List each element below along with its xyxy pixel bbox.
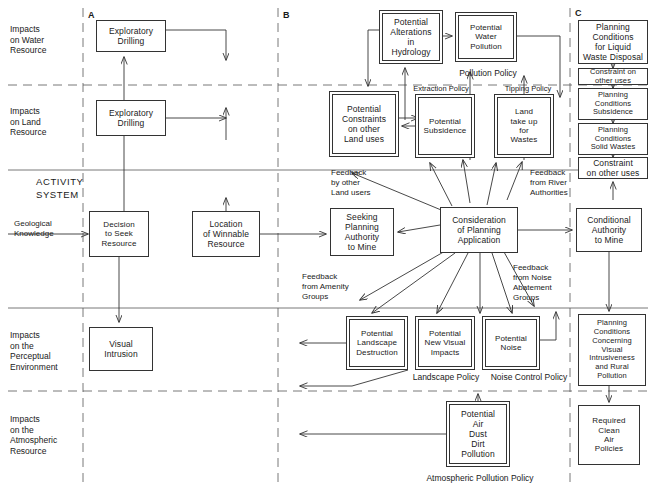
node-potential-subsidence: Potential Subsidence [415,94,475,158]
node-label: Decision to Seek Resource [99,220,138,248]
node-potential-new-visual-impacts: Potential New Visual Impacts [415,316,475,370]
node-label: Visual Intrusion [102,339,140,359]
row-label-perceptual: Impacts on the Perceptual Environment [10,330,86,373]
diagram-canvas: Exploratory DrillingExploratory Drilling… [0,0,652,493]
annotation-noise-control-policy: Noise Control Policy [478,372,580,383]
node-potential-constraints-land-uses: Potential Constraints on other Land uses [329,91,399,157]
node-exploratory-drilling-water: Exploratory Drilling [96,20,166,52]
column-label-c: C [575,8,587,19]
node-label: Planning Conditions Concerning Visual In… [587,319,637,381]
node-planning-conditions-liquid-waste: Planning Conditions for Liquid Waste Dis… [578,20,648,64]
node-label: Consideration of Planning Application [450,215,508,245]
annotation-feedback-by-other-land-users: Feedback by other Land users [331,168,415,198]
annotation-feedback-from-noise-abatement: Feedback from Noise Abatement Groups [513,263,579,303]
node-label: Exploratory Drilling [107,108,155,128]
node-required-clean-air-policies: Required Clean Air Policies [578,405,640,465]
node-label: Planning Conditions Solid Wastes [589,126,638,153]
node-planning-conditions-subsidence: Planning Conditions Subsidence [578,88,648,120]
node-label: Potential Noise [493,334,529,353]
node-potential-alterations-hydrology: Potential Alterations in Hydrology [379,10,443,64]
node-conditional-authority-to-mine: Conditional Authority to Mine [576,208,642,252]
node-decision-to-seek-resource: Decision to Seek Resource [89,211,149,257]
activity-system-label: ACTIVITY SYSTEM [36,176,126,202]
node-planning-conditions-visual: Planning Conditions Concerning Visual In… [578,314,646,386]
node-exploratory-drilling-land: Exploratory Drilling [96,100,166,136]
node-label: Potential Landscape Destruction [354,329,400,357]
node-potential-landscape-destruction: Potential Landscape Destruction [346,316,408,370]
node-label: Potential Alterations in Hydrology [388,17,433,57]
annotation-geological-knowledge: Geological Knowledge [14,219,88,239]
node-label: Conditional Authority to Mine [585,215,633,245]
row-label-water: Impacts on Water Resource [10,24,76,56]
node-constraint-other-uses-1: Constraint on other uses [578,68,648,85]
annotation-feedback-from-river-authorities: Feedback from River Authorities [530,168,596,198]
row-label-land: Impacts on Land Resource [10,106,76,138]
node-label: Constraint on other uses [588,68,638,86]
node-potential-air-pollution: Potential Air Dust Dirt Pollution [446,401,510,467]
annotation-tipping-policy: Tipping Policy [490,84,566,93]
node-label: Potential New Visual Impacts [423,329,468,357]
annotation-pollution-policy: Pollution Policy [443,68,533,79]
node-label: Potential Subsidence [422,117,469,136]
annotation-extraction-policy: Extraction Policy [399,84,483,93]
annotation-atmospheric-pollution-policy: Atmospheric Pollution Policy [414,473,546,484]
node-potential-noise: Potential Noise [482,316,540,370]
node-label: Required Clean Air Policies [590,416,627,454]
node-label: Location of Winnable Resource [201,219,251,249]
annotation-landscape-policy: Landscape Policy [403,372,489,383]
column-label-b: B [283,10,295,21]
annotation-feedback-from-amenity-groups: Feedback from Amenity Groups [302,272,378,302]
node-consideration-planning-application: Consideration of Planning Application [440,207,518,253]
node-label: Potential Air Dust Dirt Pollution [459,409,497,459]
node-visual-intrusion: Visual Intrusion [89,327,153,371]
node-label: Potential Water Pollution [468,23,504,51]
node-label: Exploratory Drilling [107,26,155,46]
node-seeking-planning-authority: Seeking Planning Authority to Mine [330,208,394,256]
node-planning-conditions-solid-wastes: Planning Conditions Solid Wastes [578,123,648,155]
node-label: Seeking Planning Authority to Mine [343,212,381,252]
node-label: Potential Constraints on other Land uses [340,104,388,144]
node-label: Planning Conditions Subsidence [591,91,635,118]
node-land-take-up-for-wastes: Land take up for Wastes [494,94,554,158]
node-location-of-winnable-resource: Location of Winnable Resource [192,211,260,257]
row-label-atmospheric: Impacts on the Atmospheric Resource [10,414,86,457]
node-label: Planning Conditions for Liquid Waste Dis… [581,22,645,62]
node-potential-water-pollution: Potential Water Pollution [455,12,517,62]
node-label: Land take up for Wastes [509,107,540,145]
column-label-a: A [88,10,100,21]
